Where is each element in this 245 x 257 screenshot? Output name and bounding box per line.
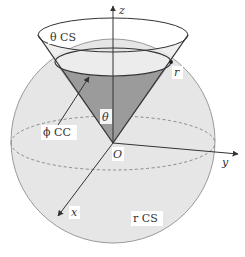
r-point-label: r xyxy=(174,66,180,79)
x-axis-label: x xyxy=(71,206,78,219)
theta-angle-label: θ xyxy=(102,111,109,124)
spherical-coordinates-diagram: z θ CS r θ ϕ CC O y x r CS xyxy=(0,0,245,257)
r-surface-label: r CS xyxy=(133,212,158,225)
z-axis-label: z xyxy=(118,4,125,17)
r-point xyxy=(169,60,173,64)
phi-curve-label: ϕ CC xyxy=(43,126,71,139)
theta-surface-label: θ CS xyxy=(50,31,76,44)
y-axis-label: y xyxy=(221,156,229,169)
origin-label: O xyxy=(113,148,122,161)
